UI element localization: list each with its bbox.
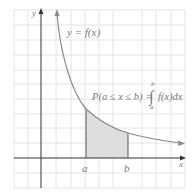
marker-a-label: a (82, 162, 88, 174)
curve-label: y = f(x) (66, 26, 100, 39)
marker-b-label: b (124, 162, 130, 174)
curve-right-arrow-icon (178, 141, 185, 147)
x-axis-label: x (178, 159, 183, 169)
integrand: f(x)dx (158, 91, 183, 103)
probability-area-diagram: y x y = f(x) a b P(a ≤ x ≤ b) = ∫ b a f(… (0, 0, 195, 196)
formula-lhs: P(a ≤ x ≤ b) = (91, 91, 152, 103)
y-axis-label: y (31, 8, 36, 18)
integral-upper-limit: b (151, 80, 155, 88)
shaded-probability-region (86, 109, 128, 158)
integral-lower-limit: a (150, 103, 154, 111)
y-axis-arrow-icon (39, 8, 44, 14)
